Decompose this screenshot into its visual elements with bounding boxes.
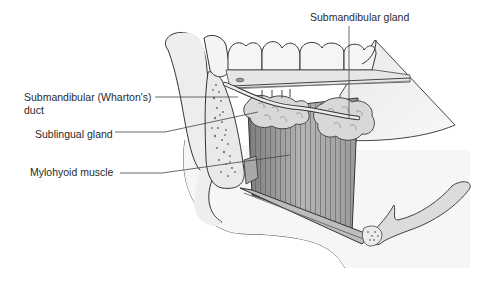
- sublingual-gland: [244, 95, 309, 128]
- duct-opening: [236, 78, 244, 82]
- label-submandibular-duct: Submandibular (Wharton's): [24, 91, 151, 104]
- submandibular-gland: [314, 98, 375, 141]
- label-sublingual-gland: Sublingual gland: [35, 128, 113, 141]
- label-mylohyoid-muscle: Mylohyoid muscle: [30, 166, 113, 179]
- label-submandibular-gland: Submandibular gland: [310, 11, 409, 24]
- label-submandibular-duct-line2: duct: [24, 104, 44, 117]
- teeth-row: [228, 42, 376, 70]
